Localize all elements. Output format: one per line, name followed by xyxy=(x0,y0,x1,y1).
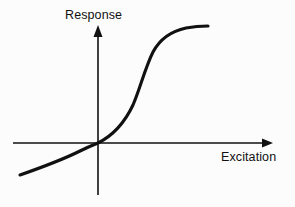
plot-canvas xyxy=(0,0,295,207)
sigmoid-curve xyxy=(20,26,208,175)
response-curve-figure: Response Excitation xyxy=(0,0,295,207)
x-axis-arrowhead-icon xyxy=(262,139,273,148)
y-axis-arrowhead-icon xyxy=(94,25,103,37)
y-axis-label: Response xyxy=(65,8,122,22)
x-axis-label: Excitation xyxy=(221,150,276,164)
